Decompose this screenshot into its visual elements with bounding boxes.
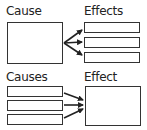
effect-box-2 [85, 38, 140, 48]
cause-box-3 [8, 115, 63, 125]
arrow-icon [64, 109, 83, 118]
arrow-icon [64, 30, 82, 43]
cause-box-1 [8, 87, 63, 97]
cause-effect-diagram [0, 0, 147, 130]
effect-box [86, 87, 141, 126]
effect-box-1 [85, 23, 140, 33]
cause-box [8, 23, 63, 64]
arrow-icon [64, 43, 82, 55]
arrow-icon [64, 93, 83, 100]
cause-box-2 [8, 101, 63, 111]
effect-box-3 [85, 53, 140, 63]
arrow-icon [64, 42, 82, 43]
